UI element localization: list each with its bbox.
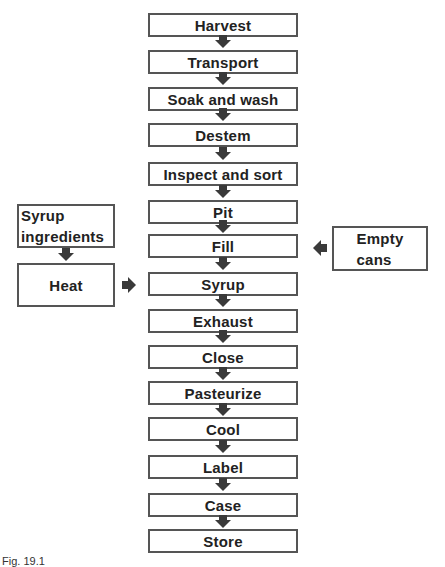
arrow-down-icon — [215, 262, 231, 270]
input-syrup-ingredients: Syrup ingredients — [17, 204, 115, 248]
arrow-down-icon — [215, 335, 231, 343]
arrow-down-icon — [215, 113, 231, 121]
step-destem: Destem — [148, 123, 298, 147]
step-label: Destem — [195, 128, 250, 143]
arrow-down-icon — [215, 152, 231, 160]
step-label: Close — [202, 350, 244, 365]
syrup-ingredients-line1: Syrup — [21, 205, 104, 226]
step-store: Store — [148, 529, 298, 553]
syrup-ingredients-line2: ingredients — [21, 226, 104, 247]
step-close: Close — [148, 345, 298, 369]
step-label: Label — [203, 460, 243, 475]
step-label: Store — [203, 534, 242, 549]
step-label: Label — [148, 455, 298, 479]
step-case: Case — [148, 493, 298, 517]
figure-caption: Fig. 19.1 — [2, 555, 442, 567]
arrow-right-icon — [128, 277, 136, 293]
step-label: Exhaust — [193, 314, 253, 329]
empty-cans-line2: cans — [357, 249, 404, 270]
arrow-down-icon — [215, 77, 231, 85]
step-label: Soak and wash — [168, 92, 279, 107]
arrow-down-icon — [215, 299, 231, 307]
empty-cans-line1: Empty — [357, 228, 404, 249]
step-cool: Cool — [148, 417, 298, 441]
arrow-down-icon — [215, 225, 231, 233]
step-label: Syrup — [201, 277, 245, 292]
arrow-down-icon — [215, 520, 231, 528]
arrow-down-icon — [215, 483, 231, 491]
step-label: Fill — [212, 239, 234, 254]
arrow-down-icon — [215, 372, 231, 380]
step-pasteurize: Pasteurize — [148, 381, 298, 405]
input-heat: Heat — [17, 263, 115, 307]
step-label: Pasteurize — [184, 386, 261, 401]
step-label: Transport — [188, 55, 259, 70]
step-transport: Transport — [148, 50, 298, 74]
input-empty-cans: Empty cans — [332, 226, 428, 271]
step-syrup: Syrup — [148, 272, 298, 296]
arrow-down-icon — [215, 190, 231, 198]
step-label: Harvest — [195, 18, 251, 33]
step-label: Pit — [213, 205, 233, 220]
step-harvest: Harvest — [148, 13, 298, 37]
step-fill: Fill — [148, 234, 298, 258]
arrow-down-icon — [215, 40, 231, 48]
arrow-down-icon — [215, 408, 231, 416]
arrow-left-icon — [313, 240, 321, 256]
arrow-down-icon — [215, 445, 231, 453]
heat-label: Heat — [49, 278, 82, 293]
step-label: Cool — [206, 422, 240, 437]
arrow-down-icon — [58, 253, 74, 261]
step-inspect-and-sort: Inspect and sort — [148, 162, 298, 186]
step-label: Inspect and sort — [163, 167, 282, 182]
step-label: Case — [205, 498, 242, 513]
